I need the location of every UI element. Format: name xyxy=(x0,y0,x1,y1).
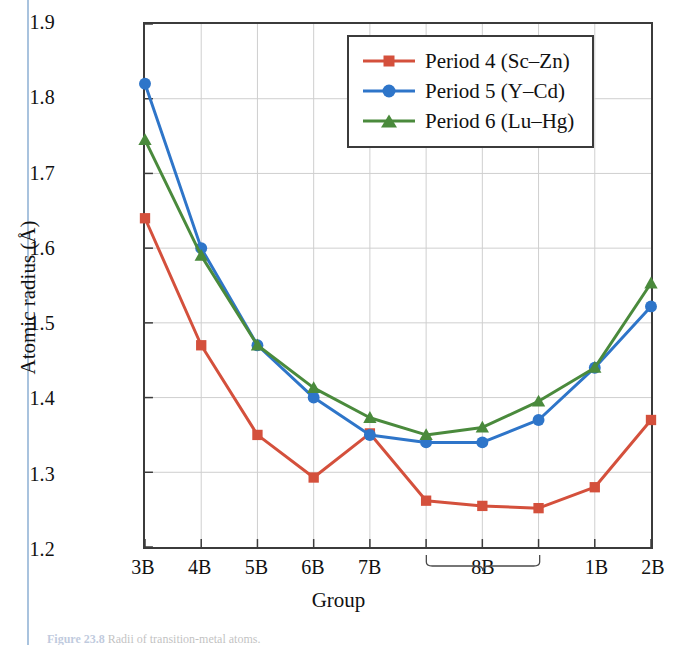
data-point-marker xyxy=(252,430,262,440)
x-axis-title: Group xyxy=(0,588,677,613)
legend-swatch-circle-icon xyxy=(363,82,415,100)
data-point-marker xyxy=(533,503,543,513)
data-point-marker xyxy=(590,482,600,492)
data-point-marker xyxy=(308,392,320,404)
data-point-marker xyxy=(644,277,657,289)
y-tick-label: 1.9 xyxy=(29,11,55,34)
data-point-marker xyxy=(646,415,656,425)
data-point-marker xyxy=(477,501,487,511)
data-point-marker xyxy=(309,472,319,482)
series-triangle xyxy=(138,133,657,440)
y-tick-label: 1.3 xyxy=(29,462,55,485)
data-point-marker xyxy=(533,414,545,426)
legend-swatch-square-icon xyxy=(363,52,415,70)
legend-item: Period 6 (Lu–Hg) xyxy=(363,106,574,136)
group-8b-bracket xyxy=(0,549,677,575)
data-point-marker xyxy=(140,213,150,223)
data-point-marker xyxy=(476,436,488,448)
data-point-marker xyxy=(196,340,206,350)
y-tick-label: 1.8 xyxy=(29,86,55,109)
data-point-marker xyxy=(363,411,376,423)
data-point-marker xyxy=(364,429,376,441)
legend-swatch-triangle-icon xyxy=(363,112,415,130)
data-point-marker xyxy=(645,300,657,312)
figure-caption: Figure 23.8 Radii of transition-metal at… xyxy=(47,632,647,645)
figure-container: 1.21.31.41.51.61.71.81.9 Atomic radius (… xyxy=(0,0,677,645)
data-point-marker xyxy=(532,395,545,407)
legend-label: Period 6 (Lu–Hg) xyxy=(425,109,574,134)
chart-legend: Period 4 (Sc–Zn)Period 5 (Y–Cd)Period 6 … xyxy=(347,35,594,148)
figure-caption-text: Radii of transition-metal atoms. xyxy=(108,632,261,645)
figure-caption-label: Figure 23.8 xyxy=(47,632,105,645)
legend-item: Period 5 (Y–Cd) xyxy=(363,76,574,106)
legend-label: Period 4 (Sc–Zn) xyxy=(425,49,570,74)
legend-label: Period 5 (Y–Cd) xyxy=(425,79,565,104)
data-point-marker xyxy=(139,78,151,90)
legend-item: Period 4 (Sc–Zn) xyxy=(363,46,574,76)
data-point-marker xyxy=(421,496,431,506)
y-axis-title: Atomic radius (Å) xyxy=(16,133,41,463)
series-square xyxy=(140,213,656,513)
